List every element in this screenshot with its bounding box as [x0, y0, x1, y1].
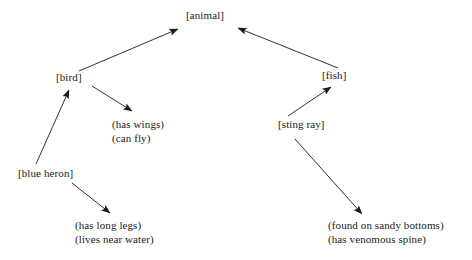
edge-fish-to-animal	[238, 28, 338, 68]
node-animal[interactable]: [animal]	[186, 9, 224, 22]
attribute-line: (can fly)	[112, 132, 164, 146]
edge-stingray-to-fish	[288, 87, 331, 116]
attribute-line: (found on sandy bottoms)	[328, 219, 444, 233]
attribute-line: (lives near water)	[75, 233, 154, 247]
edge-blueheron-to-attrs	[72, 183, 110, 213]
node-sting-ray[interactable]: [sting ray]	[278, 118, 325, 131]
attribute-line: (has venomous spine)	[328, 233, 444, 247]
attribute-line: (has wings)	[112, 118, 164, 132]
edge-stingray-to-attrs	[295, 139, 362, 214]
edge-bird-to-attrs	[92, 86, 132, 111]
diagram-canvas: [animal] [bird] [fish] [sting ray] [blue…	[0, 0, 472, 260]
node-bird[interactable]: [bird]	[56, 71, 82, 84]
node-fish[interactable]: [fish]	[322, 69, 346, 82]
attribute-line: (has long legs)	[75, 219, 154, 233]
node-blue-heron[interactable]: [blue heron]	[18, 167, 73, 180]
edge-blueheron-to-bird	[36, 90, 69, 164]
edge-bird-to-animal	[79, 29, 178, 71]
attributes-bird: (has wings)(can fly)	[112, 118, 164, 145]
attributes-blue-heron: (has long legs)(lives near water)	[75, 219, 154, 246]
attributes-sting-ray: (found on sandy bottoms)(has venomous sp…	[328, 219, 444, 246]
